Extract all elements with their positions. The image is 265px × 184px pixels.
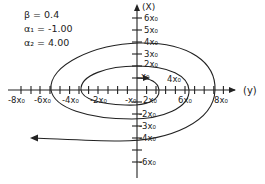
svg-text:2x₀: 2x₀ [144,59,158,69]
spiral-trajectory [34,43,215,141]
svg-text:-2x₀: -2x₀ [139,109,157,119]
svg-text:-4x₀: -4x₀ [139,133,157,143]
svg-text:6x₀: 6x₀ [144,13,158,23]
horizontal-tick-labels: -8x₀ -6x₀ -4x₀ -2x₀ -x₀ 2x₀ 6x₀ 8x₀ [8,95,228,105]
horizontal-axis-arrow-icon [229,87,236,93]
svg-text:6x₀: 6x₀ [178,95,192,105]
trajectory-end-arrow-icon [30,135,38,142]
param-alpha2: α₂ = 4.00 [24,36,73,50]
svg-text:-8x₀: -8x₀ [8,95,26,105]
start-point-label: x₀ [141,71,150,81]
horizontal-axis-label: (y) [243,85,257,96]
svg-text:-6x₀: -6x₀ [139,157,157,167]
param-beta: β = 0.4 [24,8,73,22]
svg-text:5x₀: 5x₀ [144,25,158,35]
svg-text:3x₀: 3x₀ [144,49,158,59]
curve-label-4x0: 4x₀ [167,74,181,84]
svg-text:-4x₀: -4x₀ [62,95,80,105]
svg-text:-6x₀: -6x₀ [34,95,52,105]
phase-plane-diagram: β = 0.4 α₁ = -1.00 α₂ = 4.00 [0,0,265,184]
param-alpha1: α₁ = -1.00 [24,22,73,36]
svg-text:4x₀: 4x₀ [144,37,158,47]
svg-text:-x₀: -x₀ [125,95,137,105]
svg-text:2x₀: 2x₀ [143,95,157,105]
svg-text:-2x₀: -2x₀ [90,95,108,105]
parameter-list: β = 0.4 α₁ = -1.00 α₂ = 4.00 [24,8,73,50]
vertical-axis-label: (X) [142,2,155,12]
svg-text:-3x₀: -3x₀ [139,121,157,131]
svg-text:8x₀: 8x₀ [214,95,228,105]
vertical-axis-arrow-icon [134,4,140,11]
